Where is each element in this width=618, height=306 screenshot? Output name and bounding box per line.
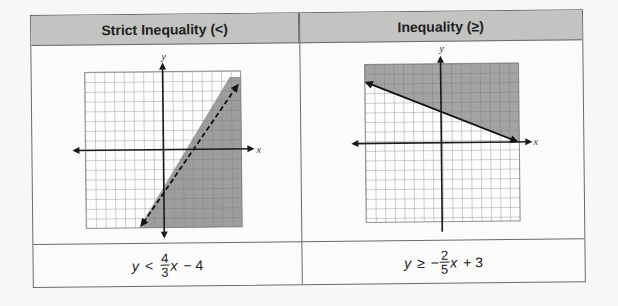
formula-variable: x [170, 257, 177, 273]
arrow-right-icon [247, 145, 254, 152]
arrow-right-icon [525, 138, 532, 145]
header-strict-inequality: Strict Inequality (<) [31, 13, 299, 46]
fraction-denominator: 5 [441, 263, 448, 276]
header-inequality: Inequality (≥) [299, 10, 582, 43]
graph-strict-inequality: y x [71, 47, 263, 241]
formula-constant: − 4 [183, 257, 203, 273]
x-axis-label: x [255, 144, 261, 155]
fraction-numerator: 2 [440, 249, 449, 263]
fraction-numerator: 4 [160, 252, 169, 266]
fraction-denominator: 3 [161, 266, 168, 279]
arrow-left-icon [72, 147, 79, 154]
formula-sign: − [431, 254, 439, 270]
formula-operator: < [145, 257, 153, 273]
x-axis-label: x [532, 136, 538, 147]
header-label: Strict Inequality (<) [101, 20, 228, 37]
arrow-down-icon [161, 232, 168, 239]
inequality-table: Strict Inequality (<) Inequality (≥) y x [30, 9, 586, 288]
y-axis-label: y [160, 51, 166, 62]
arrow-left-icon [351, 140, 358, 147]
formula-lhs: y [132, 257, 139, 273]
header-label: Inequality (≥) [397, 18, 483, 35]
formula-lhs: y [404, 255, 411, 271]
formula-inequality: y ≥ − 2 5 x + 3 [302, 239, 584, 285]
graph-inequality: y x [347, 41, 539, 235]
arrow-up-icon [437, 56, 444, 63]
formula-constant: + 3 [463, 254, 483, 270]
fraction: 4 3 [160, 252, 170, 279]
y-axis-label: y [438, 43, 444, 54]
fraction: 2 5 [440, 249, 450, 276]
formula-operator: ≥ [417, 254, 425, 270]
formula-strict-inequality: y < 4 3 x − 4 [33, 242, 301, 288]
arrow-up-icon [159, 63, 166, 70]
formula-variable: x [450, 254, 457, 270]
